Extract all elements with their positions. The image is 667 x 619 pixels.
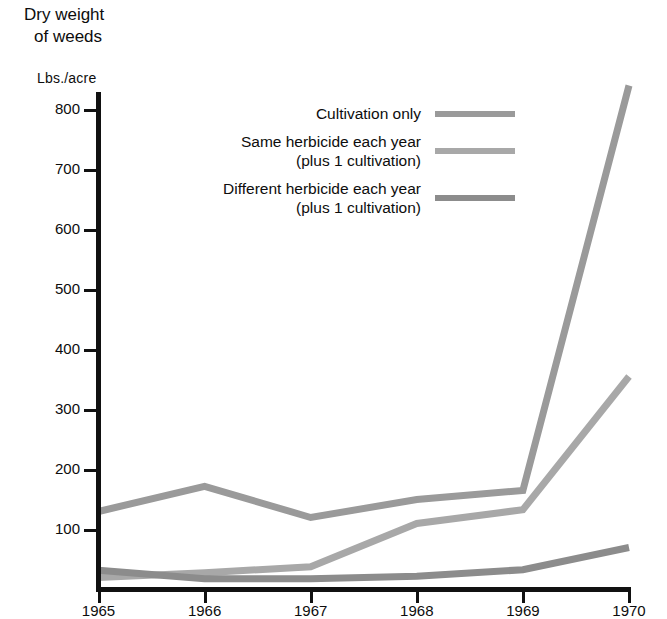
y-tick-700 [84,169,96,172]
x-tick-label-1967: 1967 [281,602,341,619]
chart-title: Dry weight of weeds [24,4,104,48]
legend-label-sub: (plus 1 cultivation) [223,198,421,217]
y-tick-label-400: 400 [26,340,80,357]
series-line-different-herbicide-each-year-plus-1-cul [99,548,630,579]
legend-label: Same herbicide each year (plus 1 cultiva… [241,132,435,170]
y-axis-unit-label: Lbs./acre [37,70,96,86]
legend-swatch-same-herbicide [435,148,515,154]
x-tick-label-1966: 1966 [175,602,235,619]
legend-item-different-herbicide: Different herbicide each year (plus 1 cu… [160,179,515,217]
y-tick-200 [84,469,96,472]
y-tick-label-300: 300 [26,400,80,417]
legend-item-cultivation-only: Cultivation only [160,104,515,123]
weed-dry-weight-line-chart: Dry weight of weeds Lbs./acre Cultivatio… [0,0,667,619]
legend-label-main: Different herbicide each year [223,180,421,197]
y-tick-label-100: 100 [26,520,80,537]
series-line-same-herbicide-each-year-plus-1-cultivat [99,377,630,578]
legend-label: Cultivation only [316,104,435,123]
y-tick-100 [84,529,96,532]
y-tick-label-700: 700 [26,160,80,177]
y-tick-label-500: 500 [26,280,80,297]
legend-swatch-cultivation-only [435,111,515,117]
legend-swatch-different-herbicide [435,195,515,201]
y-tick-600 [84,229,96,232]
x-axis-line [96,587,631,592]
y-tick-label-600: 600 [26,220,80,237]
chart-title-line-2: of weeds [34,26,104,48]
legend-label-main: Cultivation only [316,105,421,122]
y-tick-500 [84,289,96,292]
y-tick-400 [84,349,96,352]
legend-label: Different herbicide each year (plus 1 cu… [223,179,435,217]
x-tick-label-1968: 1968 [387,602,447,619]
y-tick-label-800: 800 [26,100,80,117]
x-tick-label-1965: 1965 [69,602,129,619]
chart-title-line-1: Dry weight [24,4,104,26]
y-tick-300 [84,409,96,412]
legend-label-sub: (plus 1 cultivation) [241,151,421,170]
chart-legend: Cultivation only Same herbicide each yea… [160,104,515,226]
legend-item-same-herbicide: Same herbicide each year (plus 1 cultiva… [160,132,515,170]
y-axis-line [96,92,101,592]
x-tick-label-1969: 1969 [493,602,553,619]
legend-label-main: Same herbicide each year [241,133,421,150]
x-tick-label-1970: 1970 [599,602,659,619]
y-tick-800 [84,109,96,112]
y-tick-label-200: 200 [26,460,80,477]
